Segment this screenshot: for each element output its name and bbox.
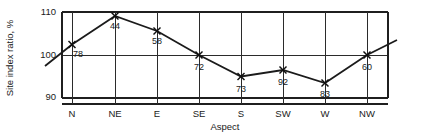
chart-figure: 78 44 58 72 73 92 83 60 110 100 90 N NE … <box>0 0 422 133</box>
point-label-nw: 60 <box>362 62 372 72</box>
x-tick-label-n: N <box>69 108 76 119</box>
x-tick-label-sw: SW <box>275 108 290 119</box>
x-tick-label-ne: NE <box>108 108 121 119</box>
x-tick-label-nw: NW <box>359 108 375 119</box>
point-label-ne: 44 <box>110 21 120 31</box>
x-axis-title: Aspect <box>210 121 239 132</box>
y-axis-title: Site index ratio, % <box>4 19 15 96</box>
x-tick-label-se: SE <box>193 108 206 119</box>
x-tick-label-e: E <box>154 108 160 119</box>
point-label-w: 83 <box>320 89 330 99</box>
point-label-s: 73 <box>236 84 246 94</box>
site-index-ratio-line-chart: 78 44 58 72 73 92 83 60 110 100 90 N NE … <box>0 0 422 133</box>
x-tick-label-w: W <box>321 108 330 119</box>
point-label-e: 58 <box>152 36 162 46</box>
y-tick-label-90: 90 <box>45 91 56 102</box>
point-label-sw: 92 <box>278 77 288 87</box>
y-tick-label-100: 100 <box>40 49 56 60</box>
x-tick-label-s: S <box>238 108 244 119</box>
y-tick-label-110: 110 <box>41 6 56 17</box>
point-label-se: 72 <box>194 62 204 72</box>
point-label-n: 78 <box>73 49 83 59</box>
